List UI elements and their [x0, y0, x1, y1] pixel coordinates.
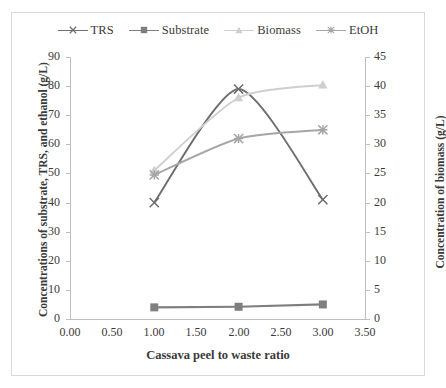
- legend-item-substrate: Substrate: [129, 24, 209, 37]
- series-etoh: [150, 125, 328, 179]
- plot-area: [70, 57, 365, 319]
- x-axis-title: Cassava peel to waste ratio: [0, 348, 436, 363]
- y-tick-label-left: 70: [30, 107, 60, 122]
- x-tick-label: 3.00: [301, 325, 345, 340]
- chart-legend: TRS Substrate Biomass: [0, 20, 436, 40]
- data-point-x: [150, 170, 159, 179]
- y-tick-right: [366, 290, 370, 291]
- legend-item-biomass: Biomass: [224, 24, 301, 37]
- x-tick-label: 3.50: [343, 325, 387, 340]
- y-tick-right: [366, 261, 370, 262]
- y-tick-right: [366, 144, 370, 145]
- legend-marker-x-icon: [58, 24, 88, 36]
- y-tick-left: [66, 319, 70, 320]
- y-tick-label-right: 45: [374, 49, 404, 64]
- x-marker-icon: [327, 26, 335, 34]
- series-trs: [150, 84, 328, 207]
- series-svg: [70, 57, 365, 319]
- x-tick-label: 0.00: [48, 325, 92, 340]
- data-point-square: [319, 300, 327, 308]
- x-tick-label: 2.50: [259, 325, 303, 340]
- legend-label-substrate: Substrate: [162, 24, 209, 37]
- y-tick-right: [366, 232, 370, 233]
- y-tick-label-right: 25: [374, 165, 404, 180]
- y-tick-label-right: 20: [374, 195, 404, 210]
- data-point-square: [150, 303, 158, 311]
- data-point-x: [150, 198, 159, 207]
- data-point-x: [318, 125, 327, 134]
- x-tick-label: 1.50: [174, 325, 218, 340]
- data-point-square: [235, 303, 243, 311]
- legend-label-biomass: Biomass: [257, 24, 301, 37]
- y-tick-right: [366, 86, 370, 87]
- data-point-triangle: [318, 80, 327, 89]
- y-tick-label-left: 40: [30, 195, 60, 210]
- y-tick-label-right: 0: [374, 311, 404, 326]
- triangle-marker-icon: [235, 26, 243, 34]
- y-axis-left-title: Concentrations of substrate, TRS, and et…: [37, 67, 49, 317]
- legend-label-trs: TRS: [91, 24, 114, 37]
- y-tick-label-left: 50: [30, 165, 60, 180]
- y-tick-label-left: 0: [30, 311, 60, 326]
- legend-marker-star-icon: [316, 24, 346, 36]
- y-tick-label-right: 10: [374, 253, 404, 268]
- legend-item-etoh: EtOH: [316, 24, 379, 37]
- x-tick-label: 1.00: [132, 325, 176, 340]
- series-substrate: [150, 300, 327, 311]
- y-tick-label-left: 10: [30, 282, 60, 297]
- y-axis-right-title: Concentration of biomass (g/L): [434, 67, 446, 317]
- square-marker-icon: [140, 26, 148, 34]
- y-tick-right: [366, 57, 370, 58]
- y-tick-right: [366, 203, 370, 204]
- y-axis-right-line: [365, 57, 366, 320]
- y-tick-label-left: 30: [30, 224, 60, 239]
- y-tick-label-right: 15: [374, 224, 404, 239]
- data-point-x: [318, 195, 327, 204]
- y-tick-right: [366, 115, 370, 116]
- y-tick-label-right: 5: [374, 282, 404, 297]
- y-tick-right: [366, 173, 370, 174]
- y-tick-label-left: 20: [30, 253, 60, 268]
- series-biomass: [150, 80, 328, 174]
- y-tick-label-left: 90: [30, 49, 60, 64]
- legend-item-trs: TRS: [58, 24, 114, 37]
- y-tick-label-left: 60: [30, 136, 60, 151]
- legend-label-etoh: EtOH: [349, 24, 379, 37]
- x-marker-icon: [69, 26, 77, 34]
- legend-marker-triangle-icon: [224, 24, 254, 36]
- y-tick-right: [366, 319, 370, 320]
- legend-marker-square-icon: [129, 24, 159, 36]
- y-tick-label-right: 40: [374, 78, 404, 93]
- data-point-x: [234, 134, 243, 143]
- x-tick-label: 2.00: [217, 325, 261, 340]
- y-tick-label-left: 80: [30, 78, 60, 93]
- x-axis-line: [70, 319, 366, 320]
- x-tick-label: 0.50: [90, 325, 134, 340]
- y-tick-label-right: 30: [374, 136, 404, 151]
- y-tick-label-right: 35: [374, 107, 404, 122]
